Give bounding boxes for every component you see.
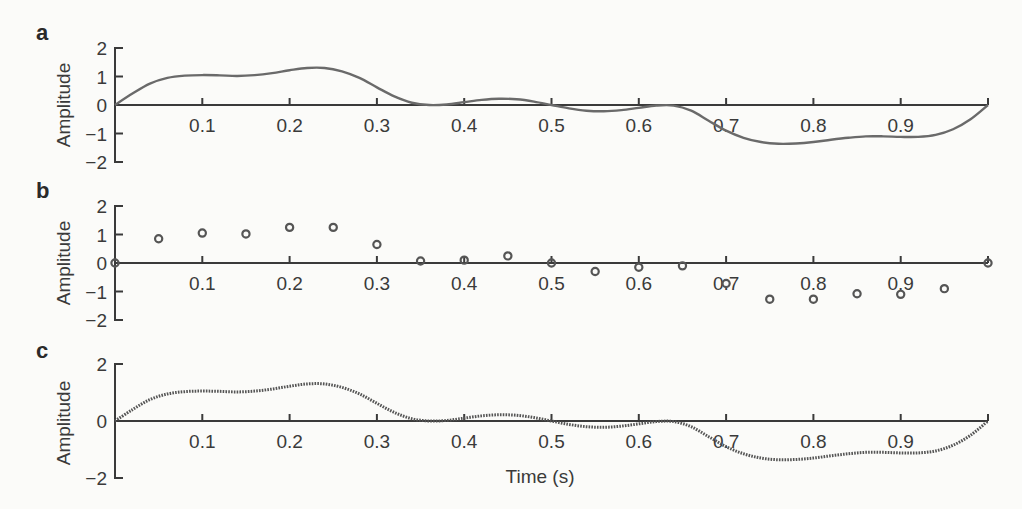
sample-point [810,296,817,303]
x-tick-label: 0.8 [800,273,826,294]
x-tick-label: 0.2 [276,115,302,136]
y-tick-label: −2 [85,152,107,173]
x-tick-label: 0.5 [538,431,564,452]
x-tick-label: 0.8 [800,431,826,452]
x-axis-label: Time (s) [506,466,575,487]
y-tick-label: 1 [96,67,107,88]
axes: 0.10.20.30.40.50.60.70.80.9210−1−2 [85,196,988,331]
x-tick-label: 0.9 [887,115,913,136]
panel-letter: b [36,178,49,203]
sample-point [592,268,599,275]
panel-a: a Amplitude 0.10.20.30.40.50.60.70.80.92… [36,20,988,173]
x-tick-label: 0.7 [713,431,739,452]
x-tick-label: 0.8 [800,115,826,136]
x-tick-label: 0.4 [451,273,478,294]
figure: a Amplitude 0.10.20.30.40.50.60.70.80.92… [0,0,1022,509]
x-tick-label: 0.1 [189,431,215,452]
sample-point [417,257,424,264]
panel-letter: a [36,20,49,45]
x-tick-label: 0.5 [538,115,564,136]
x-tick-label: 0.2 [276,273,302,294]
panel-b: b Amplitude 0.10.20.30.40.50.60.70.80.92… [36,178,992,331]
x-tick-label: 0.1 [189,115,215,136]
x-tick-label: 0.4 [451,115,478,136]
sample-point [373,241,380,248]
sample-point [679,262,686,269]
x-tick-label: 0.5 [538,273,564,294]
x-tick-label: 0.6 [626,273,652,294]
y-tick-label: 0 [96,253,107,274]
sample-point [897,291,904,298]
x-tick-label: 0.1 [189,273,215,294]
y-tick-label: −2 [85,310,107,331]
sample-point [635,264,642,271]
y-tick-label: 2 [96,196,107,217]
y-tick-label: 1 [96,225,107,246]
axes: 0.10.20.30.40.50.60.70.80.9210−1−2 [85,38,988,173]
sample-point [242,230,249,237]
y-tick-label: −1 [85,282,107,303]
sample-point [853,290,860,297]
x-tick-label: 0.3 [364,431,390,452]
sample-point [155,235,162,242]
sample-point [330,224,337,231]
sample-point [286,224,293,231]
panel-letter: c [36,338,48,363]
x-tick-label: 0.3 [364,115,390,136]
x-tick-label: 0.6 [626,431,652,452]
y-tick-label: −2 [85,468,107,489]
y-tick-label: 0 [96,95,107,116]
x-tick-label: 0.9 [887,431,913,452]
x-tick-label: 0.6 [626,115,652,136]
y-axis-label: Amplitude [53,381,74,466]
y-tick-label: 2 [96,354,107,375]
panel-c: c Amplitude 0.10.20.30.40.50.60.70.80.92… [36,338,988,489]
sample-point [504,252,511,259]
x-tick-label: 0.4 [451,431,478,452]
sample-point [941,285,948,292]
y-axis-label: Amplitude [53,63,74,148]
y-tick-label: −1 [85,124,107,145]
x-tick-label: 0.7 [713,273,739,294]
y-tick-label: 2 [96,38,107,59]
x-tick-label: 0.3 [364,273,390,294]
y-tick-label: 0 [96,411,107,432]
y-axis-label: Amplitude [53,221,74,306]
x-tick-label: 0.2 [276,431,302,452]
sample-point [199,229,206,236]
sample-point [766,296,773,303]
